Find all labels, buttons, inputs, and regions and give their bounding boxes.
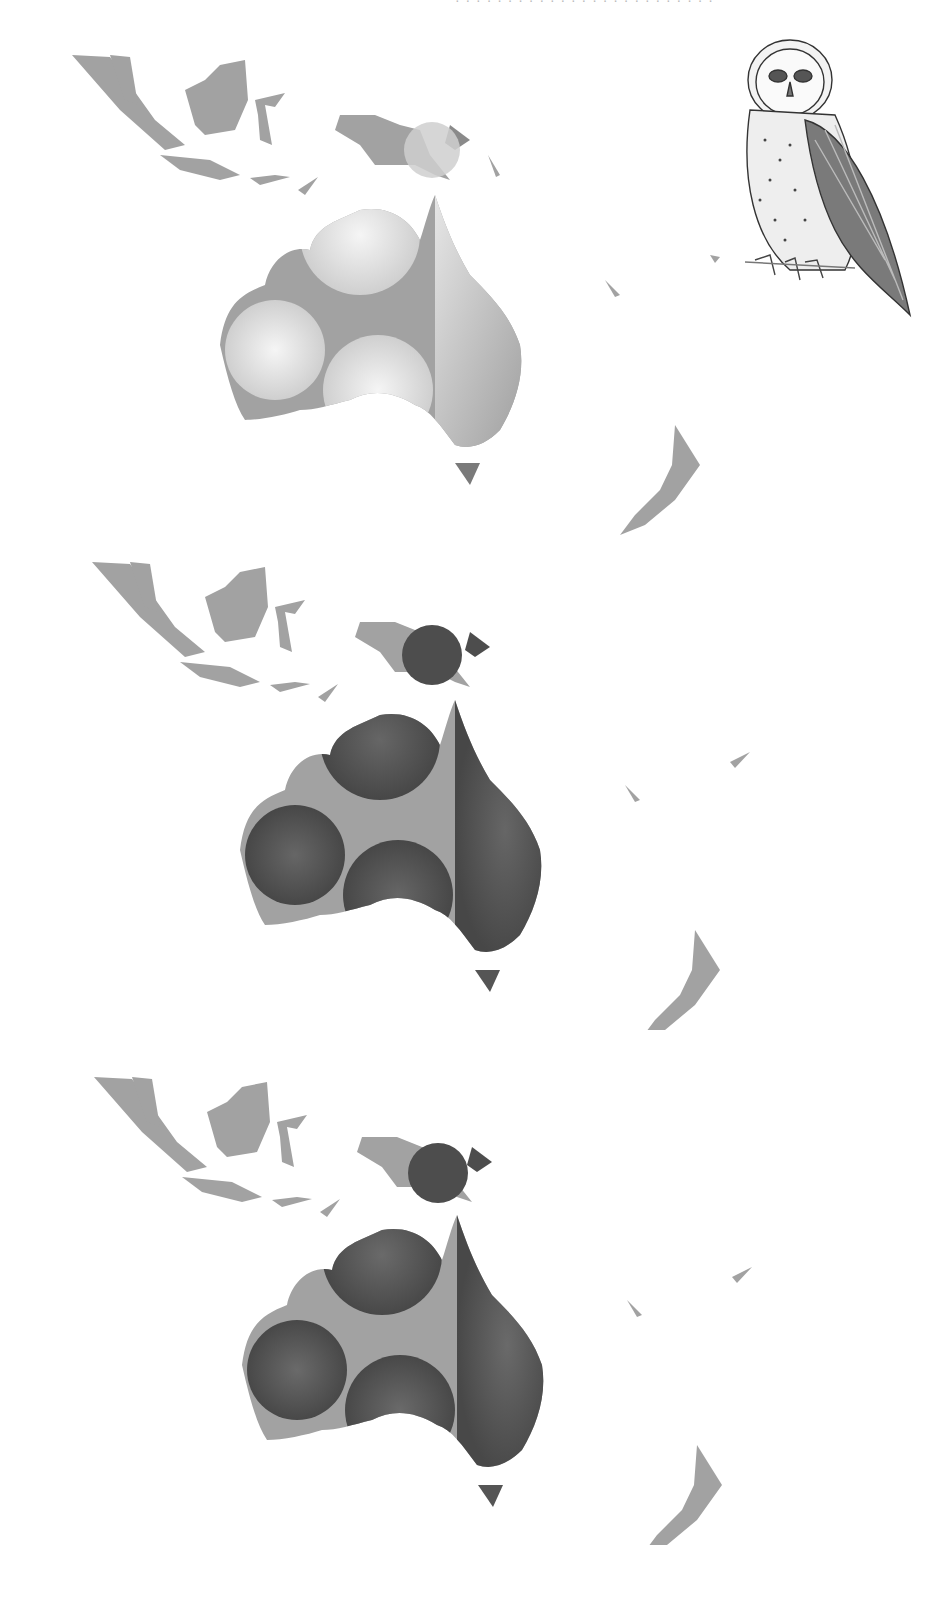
land-base [72, 55, 720, 535]
header-text-cutoff: · · · · · · · · · · · · · · · · · · · · … [455, 0, 875, 6]
map-panel-3 [60, 1055, 780, 1545]
map-panel-1 [60, 45, 780, 535]
map-panel-2 [60, 540, 780, 1030]
